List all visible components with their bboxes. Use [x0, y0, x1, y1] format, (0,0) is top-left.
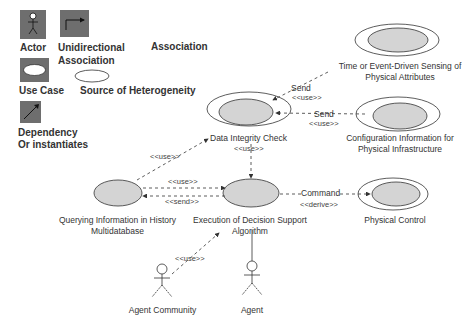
- legend-unidirectional-icon: [60, 10, 89, 37]
- edge-label-send-2: Send: [314, 109, 334, 119]
- legend-unidirectional-label-1: Unidirectional: [58, 42, 125, 54]
- usecase-physical-control[interactable]: [358, 178, 428, 210]
- legend-usecase-label: Use Case: [19, 85, 64, 97]
- usecase-configuration[interactable]: [356, 97, 440, 131]
- edge-label-use-query-dic: <<use>>: [150, 152, 180, 162]
- label-querying-1: Querying Information in History: [50, 215, 185, 225]
- legend-dependency-icon: [20, 101, 41, 123]
- legend-source-heterogeneity-label: Source of Heterogeneity: [80, 85, 196, 97]
- label-time-sensing-1: Time or Event-Driven Sensing of: [320, 61, 472, 71]
- label-configuration-1: Configuration Information for: [320, 133, 472, 143]
- actor-agent[interactable]: [242, 261, 262, 295]
- actor-agent-community[interactable]: [152, 264, 172, 297]
- edge-label-send-1: Send: [291, 83, 311, 93]
- legend-association-icon: [75, 70, 109, 82]
- edge-label-send-exec-query: <<send>>: [165, 197, 199, 207]
- edge-label-use-2: <<use>>: [309, 119, 339, 129]
- label-execution-2: Algorithm: [185, 226, 315, 236]
- legend-dependency-label-2: Or instantiates: [18, 139, 88, 151]
- label-agent-community: Agent Community: [120, 305, 205, 315]
- edge-label-use-1: <<use>>: [292, 93, 322, 103]
- edge-label-derive: <<derive>>: [300, 200, 338, 210]
- usecase-execution[interactable]: [223, 179, 279, 207]
- edge-label-use-agentcomm: <<use>>: [175, 254, 205, 264]
- edge-label-use-dic-exec: <<use>>: [234, 144, 264, 154]
- label-time-sensing-2: Physical Attributes: [320, 72, 472, 82]
- label-configuration-2: Physical Infrastructure: [320, 144, 472, 154]
- legend-actor-label: Actor: [20, 42, 46, 54]
- label-querying-2: Multidatabase: [50, 226, 185, 236]
- edge-label-command: Command: [301, 188, 340, 198]
- label-data-integrity: Data Integrity Check: [210, 133, 287, 143]
- usecase-querying[interactable]: [94, 180, 142, 206]
- label-agent: Agent: [232, 305, 272, 315]
- label-physical-control: Physical Control: [350, 215, 440, 225]
- legend-actor-icon: [20, 10, 46, 39]
- label-execution-1: Execution of Decision Support: [185, 215, 315, 225]
- legend-dependency-label-1: Dependency: [18, 127, 77, 139]
- usecase-time-sensing[interactable]: [355, 24, 439, 56]
- legend-unidirectional-label-2: Association: [58, 55, 115, 67]
- legend-usecase-icon: [20, 58, 49, 82]
- edge-label-use-query-exec: <<use>>: [168, 177, 198, 187]
- legend-association-label: Association: [151, 41, 208, 53]
